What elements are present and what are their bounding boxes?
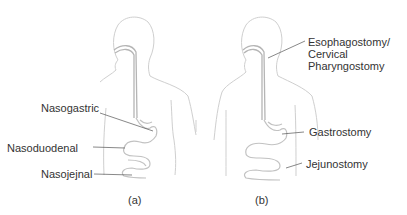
panel-b-esophagus — [243, 46, 265, 120]
panel-a-gi-tract — [122, 118, 156, 178]
panel-a-body-outline — [100, 17, 196, 175]
panel-b-gi-tract — [244, 120, 286, 180]
label-pharyngostomy: Pharyngostomy — [308, 60, 390, 72]
label-esophagostomy: Esophagostomy/ — [308, 36, 390, 48]
panel-a-feeding-tube — [114, 46, 137, 118]
caption-panel-a: (a) — [128, 194, 141, 206]
label-esophagostomy-group: Esophagostomy/ Cervical Pharyngostomy — [308, 36, 390, 72]
panel-b-body-outline — [214, 17, 318, 176]
caption-panel-b: (b) — [255, 194, 268, 206]
label-gastrostomy: Gastrostomy — [309, 126, 371, 138]
label-nasojejnal: Nasojejnal — [41, 168, 92, 180]
label-nasoduodenal: Nasoduodenal — [7, 142, 78, 154]
panel-b-leader-lines — [268, 41, 305, 168]
label-cervical: Cervical — [308, 48, 390, 60]
label-nasogastric: Nasogastric — [41, 102, 99, 114]
label-jejunostomy: Jejunostomy — [306, 158, 368, 170]
